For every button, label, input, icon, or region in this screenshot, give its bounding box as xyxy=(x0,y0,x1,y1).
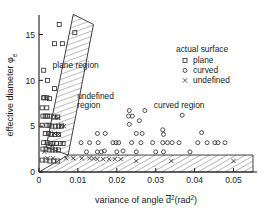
point-undefined xyxy=(42,150,46,154)
legend-title: actual surface xyxy=(176,44,228,54)
point-curved xyxy=(223,141,227,145)
point-plane xyxy=(40,106,44,110)
point-curved xyxy=(79,141,83,145)
x-tick-label: 0.05 xyxy=(225,175,242,185)
point-plane xyxy=(45,106,49,110)
point-plane xyxy=(40,158,44,162)
x-tick-label: 0.04 xyxy=(186,175,203,185)
point-curved xyxy=(134,150,138,154)
point-curved xyxy=(177,141,181,145)
point-curved xyxy=(162,132,166,136)
point-curved xyxy=(137,119,141,123)
point-curved xyxy=(117,141,121,145)
point-curved xyxy=(165,141,169,145)
point-plane xyxy=(60,42,64,46)
y-tick-label: 0 xyxy=(30,167,35,177)
point-curved xyxy=(170,141,174,145)
point-curved xyxy=(96,141,100,145)
point-curved xyxy=(134,132,138,136)
point-curved xyxy=(161,128,165,132)
point-undefined xyxy=(51,156,55,160)
legend-label-plane: plane xyxy=(193,55,214,65)
point-curved xyxy=(130,114,134,118)
point-plane xyxy=(46,78,50,82)
point-curved xyxy=(151,141,155,145)
series-curved xyxy=(79,109,227,154)
figure-container: 00.010.020.030.040.05051015 plane region… xyxy=(0,0,270,217)
x-tick-label: 0.03 xyxy=(147,175,164,185)
point-plane xyxy=(53,87,57,91)
legend-label-undefined: undefined xyxy=(193,75,230,85)
point-curved xyxy=(200,131,204,135)
point-curved xyxy=(205,141,209,145)
point-curved xyxy=(127,109,131,113)
point-curved xyxy=(130,141,134,145)
undefined-band-horizontal xyxy=(39,155,253,172)
point-curved xyxy=(126,114,130,118)
x-tick-label: 0.02 xyxy=(108,175,125,185)
point-curved xyxy=(161,141,165,145)
legend: actual surfaceplanecurvedundefined xyxy=(176,44,230,85)
point-curved xyxy=(162,150,166,154)
annotation-label: region xyxy=(77,100,101,110)
point-curved xyxy=(180,113,184,117)
point-plane xyxy=(57,22,61,26)
point-curved xyxy=(84,150,88,154)
point-curved xyxy=(88,141,92,145)
x-tick-label: 0 xyxy=(37,175,42,185)
x-tick-label: 0.01 xyxy=(70,175,87,185)
hatched-regions xyxy=(39,14,253,172)
point-curved xyxy=(95,150,99,154)
legend-label-curved: curved xyxy=(193,65,218,75)
point-curved xyxy=(140,132,144,136)
point-curved xyxy=(103,132,107,136)
point-curved xyxy=(121,149,125,153)
point-curved xyxy=(115,150,119,154)
annotation-label: plane region xyxy=(53,60,99,70)
y-tick-label: 10 xyxy=(25,76,35,86)
x-axis-title: variance of angle d2(rad2) xyxy=(95,194,197,206)
point-plane xyxy=(53,42,57,46)
point-curved xyxy=(188,150,192,154)
point-curved xyxy=(154,150,158,154)
legend-marker-plane xyxy=(183,58,187,62)
scatter-plot: 00.010.020.030.040.05051015 plane region… xyxy=(0,0,270,217)
y-tick-label: 15 xyxy=(25,30,35,40)
point-curved xyxy=(139,141,143,145)
legend-marker-curved xyxy=(183,68,187,72)
point-curved xyxy=(143,109,147,113)
y-tick-label: 5 xyxy=(30,121,35,131)
point-curved xyxy=(95,132,99,136)
point-plane xyxy=(42,68,46,72)
annotation-label: curved region xyxy=(154,100,205,110)
point-curved xyxy=(196,141,200,145)
point-curved xyxy=(127,122,131,126)
legend-marker-undefined xyxy=(183,78,187,82)
y-axis-title: effective diameter φe xyxy=(5,53,18,136)
